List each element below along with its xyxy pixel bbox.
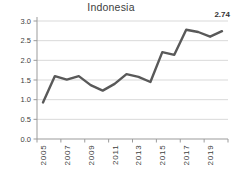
x-tick-label: 2009 [87,145,96,166]
x-tick-label: 2013 [134,145,143,166]
x-tick-label: 2011 [111,145,120,165]
indonesia-line-chart: Indonesia 0.00.51.01.52.02.53.0200520072… [0,0,234,174]
x-tick-label: 2017 [182,145,191,166]
y-tick-label: 3.0 [21,17,31,26]
y-tick-label: 2.0 [21,56,31,65]
y-tick-label: 2.5 [21,36,31,45]
y-tick-label: 1.5 [21,76,31,85]
x-tick-label: 2005 [39,145,48,166]
x-tick-label: 2019 [206,145,215,166]
y-tick-label: 0.5 [21,115,31,124]
y-tick-label: 0.0 [21,135,31,144]
y-tick-label: 1.0 [21,95,31,104]
x-tick-label: 2015 [158,145,167,166]
last-value-label: 2.74 [214,10,230,19]
plot-area: 0.00.51.01.52.02.53.02005200720092011201… [0,0,234,174]
x-tick-label: 2007 [63,145,72,166]
